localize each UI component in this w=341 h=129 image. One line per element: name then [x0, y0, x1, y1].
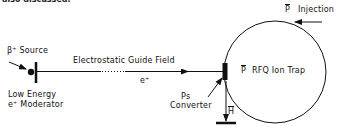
- converter-label: Converter: [170, 101, 212, 110]
- guide-field-label: Electrostatic Guide Field: [73, 56, 175, 65]
- antihydrogen-label: H: [228, 107, 234, 116]
- ps-converter-block: [223, 63, 228, 80]
- pbar-injection-symbol: P: [285, 5, 290, 14]
- beta-source-label: β⁺ Source: [7, 46, 48, 55]
- moderator-label-line1: Low Energy: [8, 90, 56, 99]
- converter-pointer-arrow: [208, 78, 222, 97]
- positron-label: e⁺: [140, 76, 150, 85]
- injection-label: Injection: [298, 5, 334, 14]
- trap-name-label: RFQ Ion Trap: [252, 66, 305, 75]
- ps-label: Ps: [181, 92, 190, 101]
- source-pointer-arrow: [9, 62, 26, 69]
- source-dot: [28, 69, 34, 75]
- moderator-label-line2: e⁺ Moderator: [8, 100, 63, 109]
- trap-pbar-symbol: P: [241, 66, 246, 75]
